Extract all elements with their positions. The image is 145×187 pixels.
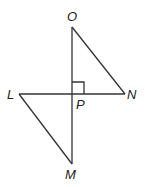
label-n: N [127, 87, 137, 102]
geometry-diagram: O L P N M [0, 0, 145, 187]
right-angle-marker [72, 82, 84, 94]
label-o: O [67, 9, 77, 24]
label-p: P [76, 97, 85, 112]
segment-on [72, 27, 125, 94]
label-m: M [65, 167, 76, 182]
label-l: L [7, 87, 14, 102]
diagram-canvas: O L P N M [0, 0, 145, 187]
segment-lm [19, 94, 72, 164]
